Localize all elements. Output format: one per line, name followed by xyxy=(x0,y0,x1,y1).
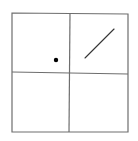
dot-marker xyxy=(54,58,58,62)
grid-diagram xyxy=(0,0,138,141)
cell-top-left xyxy=(54,58,58,62)
